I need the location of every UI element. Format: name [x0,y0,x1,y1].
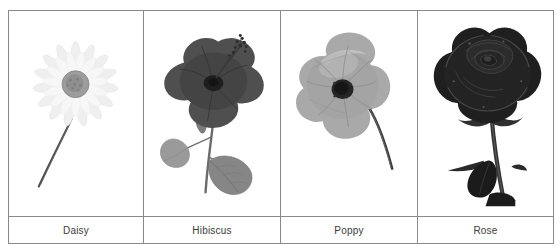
flower-label-rose: Rose [473,225,497,236]
cell-label-hibiscus: Hibiscus [144,217,281,244]
flower-table: Daisy Hibiscus Poppy Rose [8,10,554,244]
image-row [9,11,554,217]
daisy-photo [9,11,143,216]
cell-image-daisy [9,11,144,217]
cell-image-rose [418,11,554,217]
cell-image-poppy [281,11,418,217]
cell-label-poppy: Poppy [281,217,418,244]
cell-label-daisy: Daisy [9,217,144,244]
flower-label-hibiscus: Hibiscus [192,225,231,236]
cell-label-rose: Rose [418,217,554,244]
poppy-photo [281,11,417,216]
flower-table-page: Daisy Hibiscus Poppy Rose [0,0,560,247]
hibiscus-photo [144,11,280,216]
rose-photo [418,11,553,216]
flower-label-poppy: Poppy [334,225,363,236]
flower-label-daisy: Daisy [63,225,89,236]
label-row: Daisy Hibiscus Poppy Rose [9,217,554,244]
cell-image-hibiscus [144,11,281,217]
